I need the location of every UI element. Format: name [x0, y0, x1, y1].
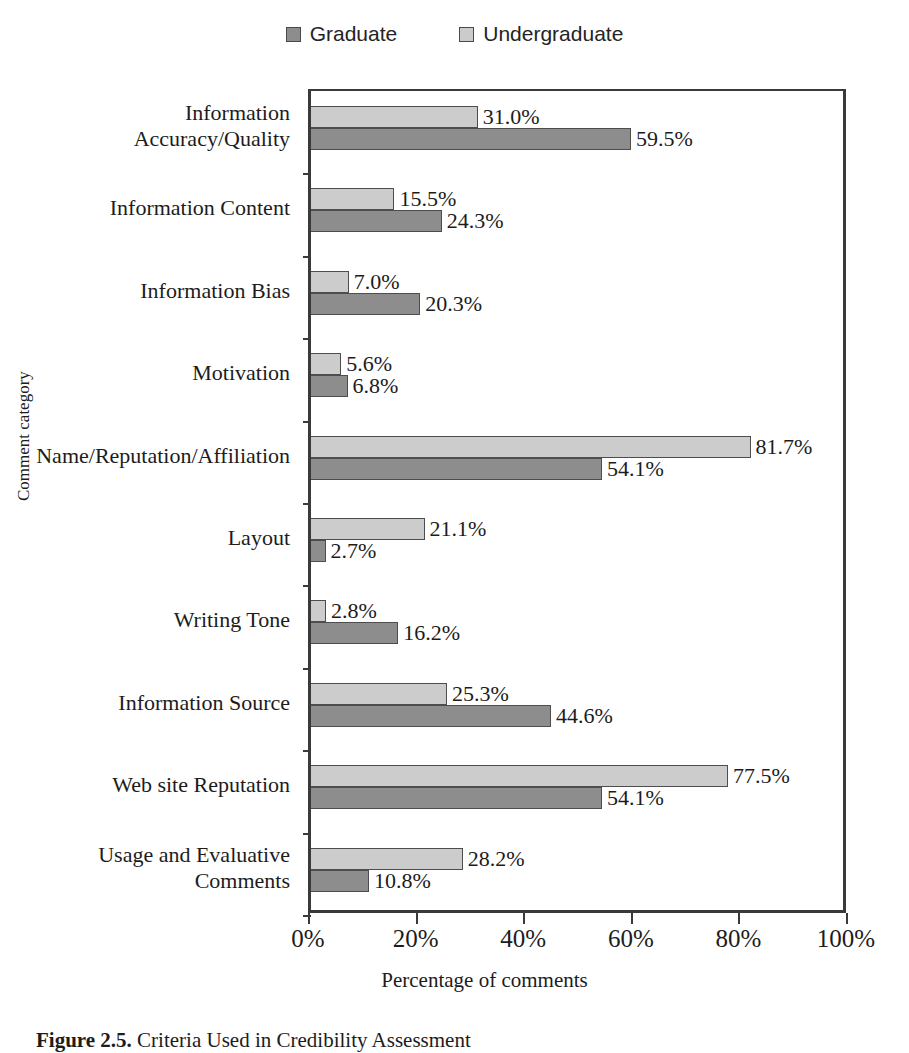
- y-axis-tick: [303, 338, 311, 340]
- bar-row-undergraduate: 31.0%: [311, 106, 843, 128]
- x-axis-tick-label: 20%: [393, 925, 439, 953]
- bar-value-label: 21.1%: [430, 516, 487, 542]
- bar-undergraduate[interactable]: 2.8%: [311, 600, 326, 622]
- legend-item-graduate: Graduate: [286, 22, 398, 46]
- x-axis-tick: [738, 913, 740, 924]
- bar-graduate[interactable]: 6.8%: [311, 375, 348, 397]
- bar-group: 7.0%20.3%: [311, 256, 843, 338]
- y-axis-category-label-line: Usage and Evaluative: [0, 842, 290, 868]
- x-axis-tick-label: 60%: [608, 925, 654, 953]
- y-axis-category-label: Writing Tone: [0, 607, 290, 633]
- bar-undergraduate[interactable]: 7.0%: [311, 271, 349, 293]
- bar-group: 77.5%54.1%: [311, 750, 843, 832]
- x-axis-tick: [846, 913, 848, 924]
- y-axis-category-label: Name/Reputation/Affiliation: [0, 443, 290, 469]
- bar-row-graduate: 6.8%: [311, 375, 843, 397]
- bar-value-label: 16.2%: [403, 620, 460, 646]
- x-axis-tick: [631, 913, 633, 924]
- bar-groups: 31.0%59.5%15.5%24.3%7.0%20.3%5.6%6.8%81.…: [311, 91, 843, 910]
- square-swatch-icon: [286, 27, 301, 42]
- bar-row-undergraduate: 25.3%: [311, 683, 843, 705]
- bar-row-graduate: 54.1%: [311, 787, 843, 809]
- y-axis-category-label: InformationAccuracy/Quality: [0, 100, 290, 152]
- bar-value-label: 31.0%: [483, 104, 540, 130]
- bar-graduate[interactable]: 24.3%: [311, 210, 442, 232]
- bar-value-label: 54.1%: [607, 456, 664, 482]
- bar-group: 5.6%6.8%: [311, 338, 843, 420]
- x-axis-tick-label: 100%: [817, 925, 875, 953]
- bar-undergraduate[interactable]: 28.2%: [311, 848, 463, 870]
- bar-undergraduate[interactable]: 31.0%: [311, 106, 478, 128]
- figure-caption: Figure 2.5. Criteria Used in Credibility…: [36, 1028, 896, 1053]
- bar-value-label: 81.7%: [756, 434, 813, 460]
- y-axis-tick: [303, 256, 311, 258]
- square-swatch-icon: [459, 27, 474, 42]
- x-axis-tick: [308, 913, 310, 924]
- bar-graduate[interactable]: 59.5%: [311, 128, 631, 150]
- bar-value-label: 59.5%: [636, 126, 693, 152]
- y-axis-tick: [303, 750, 311, 752]
- bar-value-label: 28.2%: [468, 846, 525, 872]
- y-axis-category-label-line: Layout: [0, 525, 290, 551]
- bar-graduate[interactable]: 16.2%: [311, 622, 398, 644]
- bar-row-graduate: 10.8%: [311, 870, 843, 892]
- y-axis-tick: [303, 503, 311, 505]
- bar-row-graduate: 44.6%: [311, 705, 843, 727]
- bar-group: 2.8%16.2%: [311, 585, 843, 667]
- bar-row-undergraduate: 21.1%: [311, 518, 843, 540]
- bar-row-undergraduate: 5.6%: [311, 353, 843, 375]
- bar-graduate[interactable]: 54.1%: [311, 458, 602, 480]
- legend-label-graduate: Graduate: [310, 22, 398, 46]
- legend-label-undergraduate: Undergraduate: [483, 22, 623, 46]
- y-axis-tick: [303, 585, 311, 587]
- x-axis-tick-label: 0%: [291, 925, 324, 953]
- bar-graduate[interactable]: 54.1%: [311, 787, 602, 809]
- x-axis-tick: [523, 913, 525, 924]
- bar-value-label: 54.1%: [607, 785, 664, 811]
- y-axis-tick: [303, 668, 311, 670]
- y-axis-category-label-line: Writing Tone: [0, 607, 290, 633]
- y-axis-tick: [303, 173, 311, 175]
- x-axis-title: Percentage of comments: [0, 968, 909, 993]
- bar-graduate[interactable]: 10.8%: [311, 870, 369, 892]
- bar-row-graduate: 24.3%: [311, 210, 843, 232]
- bar-undergraduate[interactable]: 77.5%: [311, 765, 728, 787]
- bar-undergraduate[interactable]: 81.7%: [311, 436, 751, 458]
- bar-value-label: 7.0%: [354, 269, 400, 295]
- bar-group: 81.7%54.1%: [311, 421, 843, 503]
- y-axis-category-label-line: Information: [0, 100, 290, 126]
- y-axis-category-label-line: Comments: [0, 868, 290, 894]
- bar-undergraduate[interactable]: 5.6%: [311, 353, 341, 375]
- bar-graduate[interactable]: 20.3%: [311, 293, 420, 315]
- bar-value-label: 25.3%: [452, 681, 509, 707]
- bar-graduate[interactable]: 2.7%: [311, 540, 326, 562]
- x-axis-tick-label: 80%: [715, 925, 761, 953]
- bar-undergraduate[interactable]: 21.1%: [311, 518, 425, 540]
- x-axis-tick-labels: 0%20%40%60%80%100%: [308, 925, 846, 957]
- y-axis-tick: [303, 833, 311, 835]
- bar-group: 31.0%59.5%: [311, 91, 843, 173]
- y-axis-category-label-line: Name/Reputation/Affiliation: [0, 443, 290, 469]
- y-axis-category-label-line: Information Bias: [0, 278, 290, 304]
- y-axis-category-label-line: Motivation: [0, 360, 290, 386]
- y-axis-category-label-line: Information Content: [0, 195, 290, 221]
- bar-row-undergraduate: 7.0%: [311, 271, 843, 293]
- bar-value-label: 24.3%: [447, 208, 504, 234]
- bar-value-label: 2.7%: [331, 538, 377, 564]
- bar-row-undergraduate: 28.2%: [311, 848, 843, 870]
- bar-row-graduate: 16.2%: [311, 622, 843, 644]
- y-axis-category-label-line: Information Source: [0, 690, 290, 716]
- bar-group: 28.2%10.8%: [311, 833, 843, 915]
- bar-group: 15.5%24.3%: [311, 173, 843, 255]
- x-axis-ticks: [308, 913, 846, 925]
- bar-undergraduate[interactable]: 25.3%: [311, 683, 447, 705]
- bar-graduate[interactable]: 44.6%: [311, 705, 551, 727]
- figure-caption-prefix: Figure 2.5.: [36, 1028, 132, 1052]
- bar-row-undergraduate: 15.5%: [311, 188, 843, 210]
- bar-undergraduate[interactable]: 15.5%: [311, 188, 394, 210]
- bar-group: 21.1%2.7%: [311, 503, 843, 585]
- y-axis-tick: [303, 421, 311, 423]
- y-axis-category-label: Web site Reputation: [0, 772, 290, 798]
- y-axis-category-label: Information Content: [0, 195, 290, 221]
- y-axis-category-label: Information Bias: [0, 278, 290, 304]
